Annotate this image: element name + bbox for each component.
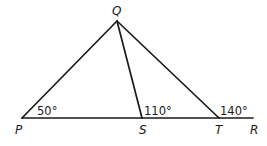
triangle-diagram: Q P S T R 50° 110° 140°: [0, 0, 267, 146]
label-S: S: [139, 123, 147, 137]
angle-P: 50°: [37, 104, 57, 118]
label-R: R: [250, 123, 258, 137]
angle-S: 110°: [144, 104, 172, 118]
label-T: T: [215, 123, 224, 137]
angle-T: 140°: [220, 104, 248, 118]
segment-QS: [117, 21, 142, 118]
label-P: P: [15, 123, 23, 137]
label-Q: Q: [112, 4, 121, 18]
